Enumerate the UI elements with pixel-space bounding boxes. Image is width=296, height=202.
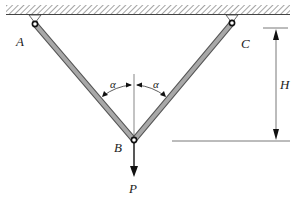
ceiling-support xyxy=(6,5,290,15)
label-alpha-right: α xyxy=(153,78,159,90)
label-alpha-left: α xyxy=(110,78,116,90)
truss-diagram: A C B P H α α xyxy=(0,0,296,202)
bar-cb xyxy=(134,23,232,140)
angle-arc-right xyxy=(136,83,166,98)
load-arrow-p xyxy=(130,143,138,177)
pin-a xyxy=(32,21,37,26)
label-p: P xyxy=(128,181,137,196)
dimension-h xyxy=(172,28,290,141)
angle-arc-left xyxy=(102,83,132,98)
bar-ab xyxy=(35,24,134,140)
label-c: C xyxy=(241,36,250,51)
label-h: H xyxy=(279,77,290,92)
label-b: B xyxy=(114,140,122,155)
pin-b xyxy=(131,137,136,142)
label-a: A xyxy=(15,34,24,49)
pin-c xyxy=(229,20,234,25)
